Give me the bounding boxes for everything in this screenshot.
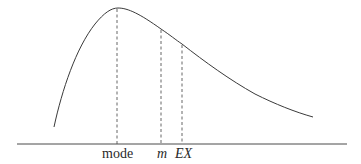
mean-label: EX <box>175 147 192 161</box>
mode-label: mode <box>102 147 133 161</box>
median-label: m <box>157 147 167 161</box>
diagram-canvas <box>0 0 361 164</box>
density-curve <box>54 8 313 127</box>
skewed-distribution-diagram: mode m EX <box>0 0 361 164</box>
